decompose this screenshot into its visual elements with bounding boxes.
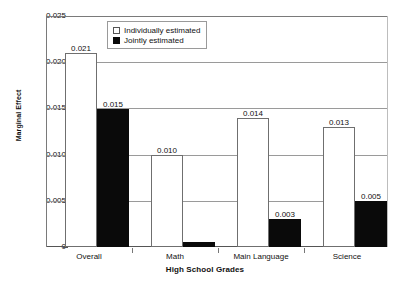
bar-science-individually-estimated: 0.013: [323, 127, 355, 247]
legend-item-individually-estimated: Individually estimated: [113, 25, 200, 35]
bar-main-language-jointly-estimated: 0.003: [269, 219, 301, 247]
legend-label: Jointly estimated: [124, 36, 184, 45]
bar-value-label: 0.015: [103, 100, 123, 109]
x-axis-title: High School Grades: [0, 265, 410, 274]
gridline-0020: [47, 62, 387, 63]
x-tick-separator-2: [218, 248, 219, 253]
bar-overall-individually-estimated: 0.021: [65, 53, 97, 247]
x-tick-label-science: Science: [333, 252, 361, 262]
bar-value-label: 0.021: [71, 44, 91, 53]
x-tick-separator-3: [304, 248, 305, 253]
y-axis-title: Marginal Effect: [15, 76, 22, 156]
chart-legend: Individually estimated Jointly estimated: [107, 21, 207, 49]
bar-value-label: 0.005: [361, 192, 381, 201]
bar-value-label: 0.010: [157, 146, 177, 155]
bar-overall-jointly-estimated: 0.015: [97, 109, 129, 247]
bar-math-jointly-estimated: [183, 242, 215, 247]
legend-label: Individually estimated: [124, 26, 200, 35]
bar-value-label: 0.003: [275, 210, 295, 219]
legend-swatch-white-square-icon: [113, 27, 120, 34]
x-tick-label-overall: Overall: [76, 252, 101, 262]
bar-value-label: 0.014: [243, 109, 263, 118]
x-tick-separator-1: [132, 248, 133, 253]
plot-area: 0.021 0.015 0.010 0.014 0.003: [46, 16, 388, 247]
x-tick-label-math: Math: [166, 252, 184, 262]
legend-item-jointly-estimated: Jointly estimated: [113, 35, 200, 45]
gridline-0025: [47, 16, 387, 17]
bar-chart: Marginal Effect 0.025 0.020 0.015 0.010 …: [0, 0, 410, 281]
bar-main-language-individually-estimated: 0.014: [237, 118, 269, 247]
legend-swatch-black-square-icon: [113, 37, 120, 44]
x-tick-label-main-language: Main Language: [233, 252, 288, 262]
bar-science-jointly-estimated: 0.005: [355, 201, 387, 247]
bar-value-label: 0.013: [329, 118, 349, 127]
bar-math-individually-estimated: 0.010: [151, 155, 183, 247]
y-tick-mark-0: [63, 247, 68, 248]
